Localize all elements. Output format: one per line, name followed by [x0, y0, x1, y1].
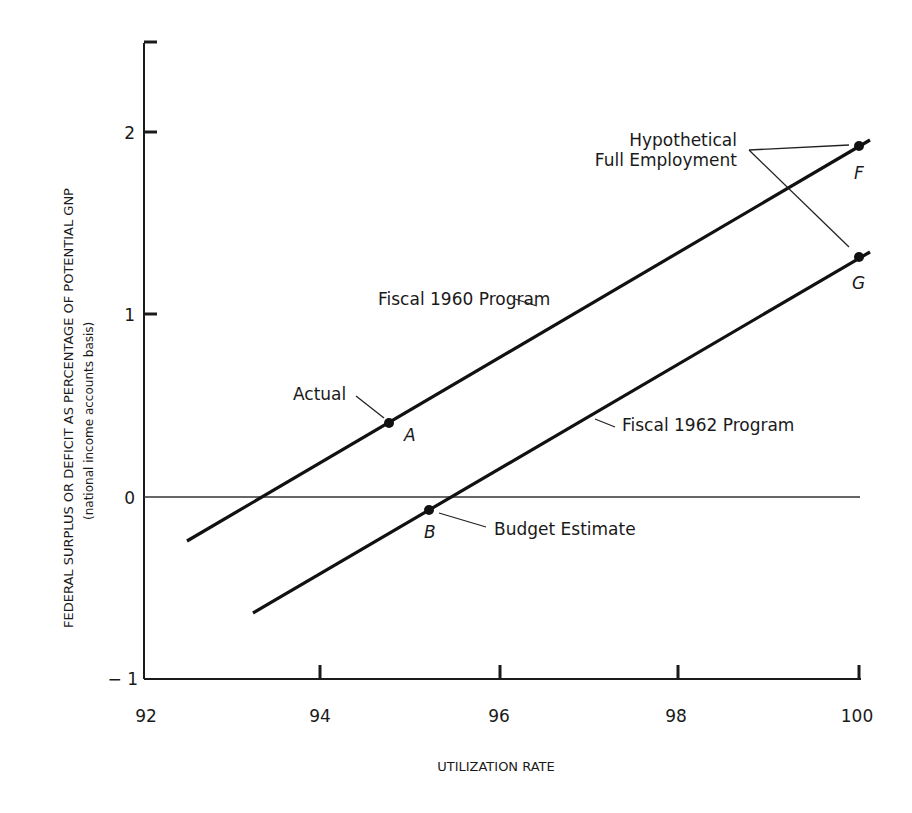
x-tick-label-92: 92 — [135, 706, 157, 726]
point-label-f: F — [854, 163, 864, 183]
y-tick-label-neg1: − 1 — [108, 669, 138, 689]
leader-actual — [356, 396, 384, 418]
annotation-fiscal-1962: Fiscal 1962 Program — [622, 415, 794, 435]
chart: 2 1 0 − 1 92 94 96 98 100 UTILIZATION RA… — [0, 0, 912, 813]
x-tick-label-98: 98 — [665, 706, 687, 726]
point-label-a: A — [403, 425, 416, 445]
annotation-budget-estimate: Budget Estimate — [494, 519, 636, 539]
point-label-b: B — [424, 522, 436, 542]
y-tick-label-0: 0 — [124, 488, 135, 508]
point-g — [854, 252, 864, 262]
leader-budget-estimate — [439, 513, 486, 527]
y-tick-label-1: 1 — [124, 305, 135, 325]
y-tick-label-2: 2 — [124, 123, 135, 143]
point-label-g: G — [852, 273, 865, 293]
annotation-actual: Actual — [293, 384, 346, 404]
leader-hyp-f — [749, 145, 849, 150]
line-fiscal-1960 — [187, 140, 870, 541]
x-axis-title: UTILIZATION RATE — [437, 759, 555, 774]
annotation-full-employment: Full Employment — [595, 150, 738, 170]
x-tick-label-96: 96 — [488, 706, 510, 726]
point-a — [384, 418, 394, 428]
x-tick-label-100: 100 — [841, 706, 873, 726]
annotation-fiscal-1960: Fiscal 1960 Program — [378, 289, 550, 309]
point-f — [854, 141, 864, 151]
y-axis-title: FEDERAL SURPLUS OR DEFICIT AS PERCENTAGE… — [61, 188, 76, 628]
y-axis-subtitle: (national income accounts basis) — [82, 322, 96, 520]
x-tick-label-94: 94 — [309, 706, 331, 726]
point-b — [424, 505, 434, 515]
annotation-hypothetical: Hypothetical — [629, 130, 737, 150]
leader-hyp-g — [749, 150, 849, 247]
leader-fiscal-1962 — [595, 419, 615, 427]
